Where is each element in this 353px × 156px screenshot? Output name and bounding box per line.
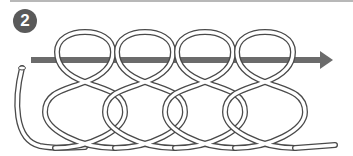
figure-eight-loops-diagram <box>0 0 353 156</box>
figure-eight-loop-4 <box>225 32 305 148</box>
rope-cut-end <box>19 66 26 70</box>
